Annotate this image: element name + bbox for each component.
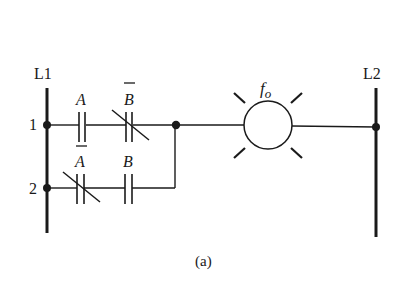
figure-caption: (a) (195, 253, 212, 270)
contact-a-bar-label: A (74, 153, 85, 170)
junction-rung2-left (43, 184, 51, 192)
lamp-output-icon (234, 93, 302, 158)
contact-a-normally-open (79, 112, 85, 142)
junction-right-rail (372, 123, 380, 131)
ladder-diagram: L1 L2 1 2 A B A B fo (a) (0, 0, 404, 289)
rung-1 (47, 110, 244, 142)
contact-b-bar-normally-closed (112, 110, 149, 142)
output-label: fo (260, 79, 272, 101)
right-rail-label: L2 (363, 65, 381, 82)
rung-1-number: 1 (29, 116, 37, 133)
junction-dots (43, 121, 380, 192)
rung-2 (47, 125, 175, 204)
output-label-sub: o (265, 86, 272, 101)
left-rail-label: L1 (34, 65, 52, 82)
junction-parallel (172, 121, 180, 129)
contact-b-normally-open (125, 174, 132, 204)
output-wire (292, 126, 376, 127)
contact-b-label: B (123, 153, 133, 170)
contact-b-bar-label: B (124, 91, 134, 108)
rung-2-number: 2 (29, 180, 37, 197)
junction-rung1-left (43, 121, 51, 129)
contact-a-label: A (75, 91, 86, 108)
